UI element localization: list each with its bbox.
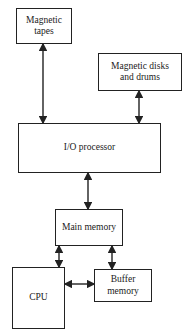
node-magnetic-tapes: Magnetic tapes xyxy=(16,8,72,44)
node-label-line: Magnetic disks xyxy=(111,61,169,72)
node-main-memory: Main memory xyxy=(55,209,123,246)
node-label-line: CPU xyxy=(29,292,47,303)
node-label-line: memory xyxy=(107,286,139,297)
node-label-line: and drums xyxy=(111,72,169,83)
node-label-line: Buffer xyxy=(107,274,139,285)
node-io-processor: I/O processor xyxy=(18,123,161,173)
node-label-line: tapes xyxy=(26,26,62,37)
node-label-line: Magnetic xyxy=(26,15,62,26)
node-buffer-memory: Buffer memory xyxy=(94,269,152,302)
node-label-line: I/O processor xyxy=(64,142,115,153)
node-cpu: CPU xyxy=(12,267,65,329)
node-label-line: Main memory xyxy=(62,222,116,233)
node-magnetic-disks-drums: Magnetic disks and drums xyxy=(98,53,182,91)
